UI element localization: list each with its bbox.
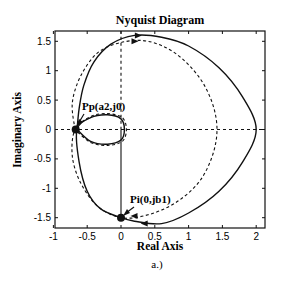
point-marker <box>72 126 80 134</box>
direction-arrow-icon <box>141 221 148 227</box>
y-tick-label: -1 <box>42 183 51 194</box>
x-tick-label: 1 <box>186 231 192 242</box>
axis-ticks: -1-0.500.511.52-1.5-1-0.500.511.5 <box>34 31 265 242</box>
annotation-pp-label: Pp(a2,j0) <box>82 100 125 113</box>
figure-caption: a.) <box>151 258 163 271</box>
x-tick-label: 0 <box>118 231 124 242</box>
x-tick-label: 1.5 <box>215 231 229 242</box>
annotation-pp: Pp(a2,j0) <box>76 100 125 127</box>
direction-arrow-icon <box>132 38 139 44</box>
x-tick-label: -0.5 <box>79 231 97 242</box>
x-tick-label: -1 <box>49 231 58 242</box>
y-tick-label: -0.5 <box>34 153 52 164</box>
x-tick-label: 2 <box>253 231 259 242</box>
y-tick-label: -1.5 <box>34 212 52 223</box>
y-tick-label: 1.5 <box>37 36 51 47</box>
annotation-pi: Pi(0,jb1) <box>123 193 171 216</box>
y-tick-label: 0.5 <box>37 95 51 106</box>
direction-arrow-icon <box>135 32 142 38</box>
y-tick-label: 1 <box>45 65 51 76</box>
nyquist-chart: Nyquist Diagram -1-0.500.511.52-1.5-1-0.… <box>0 0 281 286</box>
y-tick-label: 0 <box>45 124 51 135</box>
annotation-pi-label: Pi(0,jb1) <box>130 193 171 206</box>
y-axis-label: Imaginary Axis <box>11 92 24 168</box>
x-axis-label: Real Axis <box>137 240 184 252</box>
chart-title: Nyquist Diagram <box>116 13 204 27</box>
